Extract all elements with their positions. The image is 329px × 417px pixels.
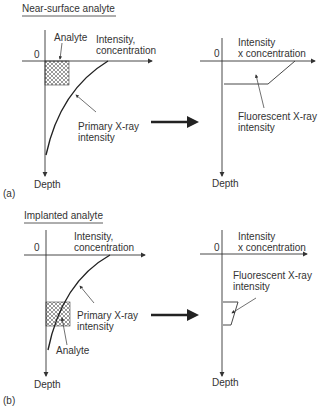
panel-b-tag: (b)	[3, 395, 15, 406]
x-axis-label-1: Intensity,	[96, 34, 135, 45]
analyte-region	[45, 61, 69, 85]
analyte-label: Analyte	[54, 32, 88, 43]
fluorescent-intensity-shape	[223, 302, 238, 325]
panel-b-title: Implanted analyte	[24, 210, 103, 221]
curve-pointer	[80, 286, 94, 303]
curve-label-2: intensity	[78, 132, 115, 143]
x-axis-label-1: Intensity	[238, 37, 275, 48]
curve-label-1: Primary X-ray	[77, 310, 138, 321]
panel-b-right-graph: 0 Intensity x concentration Fluorescent …	[200, 230, 312, 388]
curve-label-1: Fluorescent X-ray	[238, 111, 317, 122]
x-axis-label-2: x concentration	[238, 242, 306, 253]
curve-pointer	[232, 298, 256, 313]
x-axis-label-2: concentration	[74, 242, 134, 253]
x-axis-label-2: x concentration	[238, 48, 306, 59]
origin-label: 0	[34, 242, 40, 253]
diagram-canvas: Near-surface analyte 0 Analyte Intensity…	[0, 0, 329, 417]
origin-label: 0	[214, 242, 220, 253]
y-axis-label: Depth	[212, 377, 239, 388]
panel-a: Near-surface analyte 0 Analyte Intensity…	[3, 3, 317, 199]
panel-b: Implanted analyte 0 Intensity, concentra…	[3, 210, 312, 406]
y-axis-label: Depth	[34, 379, 61, 390]
fluorescent-intensity-line	[224, 61, 295, 84]
curve-pointer	[76, 95, 96, 112]
curve-pointer	[256, 75, 264, 108]
panel-a-left-graph: 0 Analyte Intensity, concentration Prima…	[22, 30, 156, 190]
panel-a-tag: (a)	[3, 188, 15, 199]
origin-label: 0	[214, 48, 220, 59]
transform-arrow-icon	[187, 309, 199, 321]
x-axis-label-1: Intensity,	[74, 231, 113, 242]
curve-label-1: Primary X-ray	[78, 121, 139, 132]
y-axis-label: Depth	[212, 178, 239, 189]
panel-a-right-graph: 0 Intensity x concentration Fluorescent …	[200, 37, 317, 189]
x-axis-label-2: concentration	[96, 45, 156, 56]
transform-arrow-icon	[187, 116, 199, 128]
origin-label: 0	[34, 49, 40, 60]
curve-label-2: intensity	[77, 321, 114, 332]
analyte-label: Analyte	[56, 345, 90, 356]
analyte-region	[46, 302, 70, 326]
x-axis-label-1: Intensity	[238, 231, 275, 242]
panel-a-title: Near-surface analyte	[22, 3, 115, 14]
curve-label-2: intensity	[233, 281, 270, 292]
curve-label-2: intensity	[238, 122, 275, 133]
analyte-pointer	[60, 43, 62, 59]
panel-b-left-graph: 0 Intensity, concentration Primary X-ray…	[24, 230, 145, 390]
y-axis-label: Depth	[34, 179, 61, 190]
curve-label-1: Fluorescent X-ray	[233, 270, 312, 281]
